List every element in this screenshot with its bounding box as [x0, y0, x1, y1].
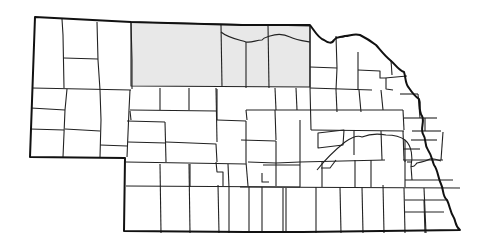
panhandle-county-lines: [30, 19, 132, 157]
shaded-region: [131, 22, 310, 87]
nebraska-county-map: [0, 0, 489, 250]
